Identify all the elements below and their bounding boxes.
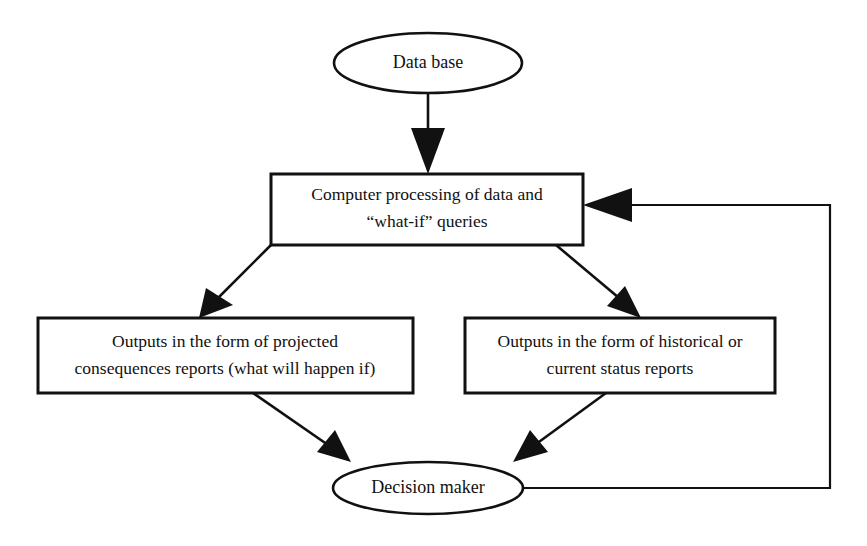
- database-label: Data base: [393, 52, 463, 72]
- historical-output-box-shape: [465, 318, 775, 393]
- flowchart-diagram: Data base Computer processing of data an…: [0, 0, 867, 546]
- edge-processing-to-projected-output: [199, 245, 271, 318]
- historical-output-label-line-1: Outputs in the form of historical or: [498, 331, 743, 351]
- historical-output-label-line-2: current status reports: [547, 358, 694, 378]
- edge-database-to-processing: [411, 93, 445, 174]
- node-database[interactable]: Data base: [334, 33, 522, 93]
- flowchart-canvas: Data base Computer processing of data an…: [0, 0, 867, 546]
- projected-output-label-line-2: consequences reports (what will happen i…: [75, 358, 376, 378]
- projected-output-box-shape: [38, 318, 413, 393]
- decision-maker-label: Decision maker: [371, 477, 484, 497]
- edge-processing-to-historical-output: [556, 245, 641, 318]
- projected-output-label-line-1: Outputs in the form of projected: [112, 331, 338, 351]
- node-decision-maker[interactable]: Decision maker: [333, 462, 523, 514]
- node-computer-processing[interactable]: Computer processing of data and “what-if…: [271, 174, 583, 245]
- node-historical-status-output[interactable]: Outputs in the form of historical or cur…: [465, 318, 775, 393]
- edge-historical-output-to-decision-maker: [513, 393, 606, 462]
- processing-label-line-1: Computer processing of data and: [311, 184, 543, 204]
- edge-projected-output-to-decision-maker: [253, 393, 351, 462]
- node-projected-consequences-output[interactable]: Outputs in the form of projected consequ…: [38, 318, 413, 393]
- processing-label-line-2: “what-if” queries: [367, 211, 488, 231]
